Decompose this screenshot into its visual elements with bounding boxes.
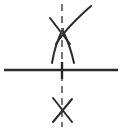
diagram-canvas — [0, 0, 129, 131]
diagram-svg — [0, 0, 129, 131]
